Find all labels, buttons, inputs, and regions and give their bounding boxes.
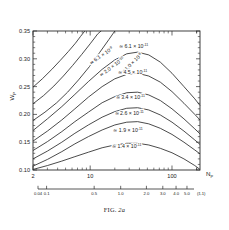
label-exponent: -8 xyxy=(137,52,142,57)
label-exponent: -11 xyxy=(140,94,145,98)
label-text: ≃ 2.6 × 10-11 xyxy=(115,110,144,116)
curve-1.4e-11-label: ≃ 1.4 × 10-11≃ 1.4 × 10-11 xyxy=(112,143,141,149)
curve-3.4e-11-label: ≃ 3.4 × 10-11≃ 3.4 × 10-11 xyxy=(116,94,145,100)
figure-2a: 0.100.150.200.250.300.35210100NPWP≃ 6.1 … xyxy=(0,0,229,230)
label-exponent: -11 xyxy=(142,69,147,73)
curve-2.6e-11-label: ≃ 2.6 × 10-11≃ 2.6 × 10-11 xyxy=(115,110,144,116)
secondary-x-tick-label: 0.5 xyxy=(91,191,97,196)
x-axis-title: NP xyxy=(206,170,213,179)
curve-6.1e-9-label: ≃ 6.1 × 10-9≃ 6.1 × 10-9 xyxy=(88,45,114,65)
label-exponent: -11 xyxy=(139,110,144,114)
curve-1.9e-11-label: ≃ 1.9 × 10-11≃ 1.9 × 10-11 xyxy=(113,127,142,133)
secondary-x-tick-label: 3.0 xyxy=(160,191,166,196)
secondary-x-tick-label: 2.0 xyxy=(144,191,150,196)
label-exponent: -11 xyxy=(138,127,143,131)
y-tick-label: 0.15 xyxy=(19,139,30,145)
y-axis-title: WP xyxy=(8,92,17,101)
chart-canvas: 0.100.150.200.250.300.35210100NPWP≃ 6.1 … xyxy=(0,0,229,230)
curve-6.1e-9 xyxy=(33,31,85,87)
y-tick-label: 0.10 xyxy=(19,167,30,173)
secondary-x-tick-label: 1.0 xyxy=(118,191,124,196)
x-axis-title-sub: P xyxy=(210,174,213,179)
secondary-x-tick-label: 5.0 xyxy=(184,191,190,196)
secondary-axis-label: (ξ-1) xyxy=(197,191,206,196)
x-tick-label: 100 xyxy=(167,173,176,179)
label-text: ≃ 3.4 × 10-11 xyxy=(116,94,145,100)
x-tick-label: 2 xyxy=(31,173,34,179)
label-exponent: -10 xyxy=(118,55,124,61)
secondary-x-tick-label: 0.1 xyxy=(44,191,50,196)
label-exponent: -11 xyxy=(137,143,142,147)
secondary-x-tick-label: 4.0 xyxy=(173,191,179,196)
y-axis-title-sub: P xyxy=(12,92,17,95)
x-tick-label: 10 xyxy=(87,173,93,179)
label-text: ≃ 1.9 × 10-11 xyxy=(113,127,142,133)
y-tick-label: 0.30 xyxy=(19,56,30,62)
label-exponent: -11 xyxy=(143,43,148,47)
label-text: ≃ 6.1 × 10-9 xyxy=(88,45,114,65)
secondary-x-tick-label: 0.04 xyxy=(34,191,43,196)
y-tick-label: 0.35 xyxy=(19,28,30,34)
y-tick-label: 0.25 xyxy=(19,84,30,90)
label-text: ≃ 6.1 × 10-11 xyxy=(119,43,148,49)
y-tick-label: 0.20 xyxy=(19,111,30,117)
label-text: ≃ 1.4 × 10-11 xyxy=(112,143,141,149)
curve-6.1e-11-label: ≃ 6.1 × 10-11≃ 6.1 × 10-11 xyxy=(119,43,148,49)
label-exponent: -9 xyxy=(108,45,113,50)
figure-caption: FIG. 2a xyxy=(104,206,125,213)
figure-caption-number: 2a xyxy=(118,206,125,213)
